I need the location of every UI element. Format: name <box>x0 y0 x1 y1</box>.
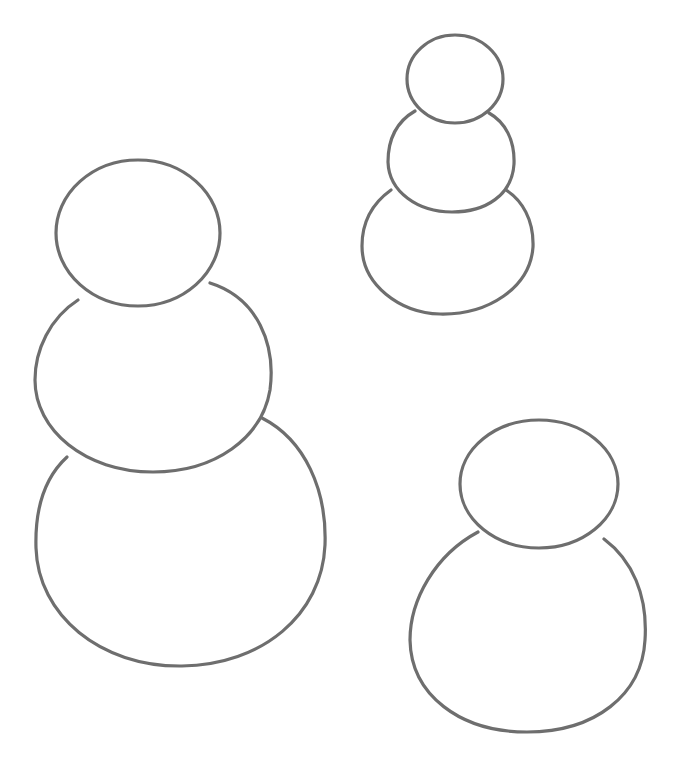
drawing-canvas <box>0 0 681 768</box>
background <box>0 0 681 768</box>
